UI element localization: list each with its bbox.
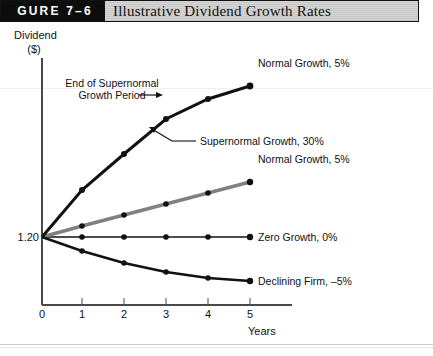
x-tick-label-1: 1 bbox=[79, 308, 85, 320]
page-bottom-rule bbox=[0, 344, 433, 345]
x-axis-label: Years bbox=[248, 325, 276, 337]
x-tick-label-0: 0 bbox=[39, 308, 45, 320]
declining-firm-line bbox=[42, 237, 250, 281]
declining-firm-point-2 bbox=[121, 260, 127, 266]
x-tick-label-2: 2 bbox=[121, 308, 127, 320]
figure-number-tag: GURE 7–6 bbox=[1, 1, 105, 21]
normal-growth-point-5 bbox=[247, 179, 253, 185]
annotation-end-supernormal-arrowhead bbox=[156, 92, 163, 98]
x-tick-label-3: 3 bbox=[163, 308, 169, 320]
annotation-end-of-supernormal: End of Supernormal Growth Period bbox=[65, 77, 163, 101]
declining-firm-point-5 bbox=[247, 278, 253, 284]
x-tick-label-4: 4 bbox=[205, 308, 211, 320]
x-tick-label-5: 5 bbox=[247, 308, 253, 320]
declining-firm-point-3 bbox=[163, 269, 169, 275]
supernormal-point-3 bbox=[163, 116, 169, 122]
normal-growth-line bbox=[42, 182, 250, 237]
supernormal-point-4 bbox=[205, 96, 211, 102]
y-axis-label-line1: Dividend bbox=[14, 29, 57, 41]
normal-growth-point-1 bbox=[79, 223, 85, 229]
page-bottom-rule-secondary bbox=[0, 347, 433, 348]
annotation-supernormal-growth: Supernormal Growth, 30% bbox=[149, 127, 324, 147]
series-supernormal-growth bbox=[42, 83, 253, 237]
figure-title: Illustrative Dividend Growth Rates bbox=[113, 1, 331, 21]
series-zero-growth bbox=[42, 234, 253, 240]
annotation-end-supernormal-line1: End of Supernormal bbox=[65, 77, 158, 89]
zero-growth-point-3 bbox=[163, 234, 169, 240]
dividend-growth-chart: Dividend ($) 0 1 2 3 4 5 Years 1.20 bbox=[0, 22, 433, 344]
zero-growth-point-1 bbox=[79, 234, 85, 240]
declining-firm-point-1 bbox=[79, 248, 85, 254]
zero-growth-point-4 bbox=[205, 234, 211, 240]
figure-header-bar: GURE 7–6 Illustrative Dividend Growth Ra… bbox=[0, 0, 419, 22]
supernormal-point-1 bbox=[79, 187, 85, 193]
supernormal-point-2 bbox=[121, 151, 127, 157]
y-tick-label-1-20: 1.20 bbox=[18, 231, 39, 243]
supernormal-point-5 bbox=[247, 83, 254, 90]
normal-growth-point-3 bbox=[163, 201, 169, 207]
zero-growth-point-2 bbox=[121, 234, 127, 240]
annotation-end-supernormal-line2: Growth Period bbox=[78, 89, 145, 101]
series-declining-firm bbox=[42, 237, 253, 284]
series-label-normal-growth: Normal Growth, 5% bbox=[258, 153, 350, 165]
declining-firm-point-4 bbox=[205, 275, 211, 281]
y-axis-label-line2: ($) bbox=[27, 43, 40, 55]
supernormal-growth-line bbox=[42, 86, 250, 237]
normal-growth-point-4 bbox=[205, 190, 211, 196]
chart-svg: Dividend ($) 0 1 2 3 4 5 Years 1.20 bbox=[0, 22, 433, 344]
series-normal-growth bbox=[42, 179, 253, 237]
normal-growth-point-2 bbox=[121, 212, 127, 218]
annotation-supernormal-text: Supernormal Growth, 30% bbox=[200, 135, 324, 147]
series-label-declining-firm: Declining Firm, –5% bbox=[258, 275, 352, 287]
zero-growth-point-5 bbox=[247, 234, 253, 240]
series-label-supernormal-end: Normal Growth, 5% bbox=[258, 57, 350, 69]
series-label-zero-growth: Zero Growth, 0% bbox=[258, 231, 337, 243]
